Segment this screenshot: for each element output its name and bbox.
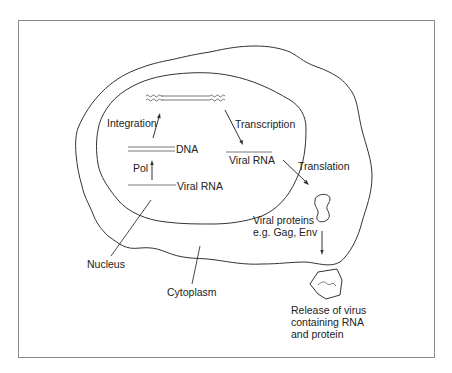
- label-transcription: Transcription: [235, 118, 295, 130]
- viral-protein-shape: [315, 194, 330, 221]
- label-nucleus: Nucleus: [87, 258, 125, 270]
- released-virus-particle: [310, 269, 342, 299]
- label-dna: DNA: [176, 143, 198, 155]
- release-arrowhead: [320, 250, 323, 255]
- label-cytoplasm: Cytoplasm: [167, 286, 217, 298]
- label-viral-rna-genome: Viral RNA: [177, 180, 223, 192]
- integrated-provirus: [146, 95, 225, 101]
- label-release-line3: and protein: [291, 328, 344, 340]
- cell-membrane-outline: [76, 46, 372, 265]
- dna-double-strand: [128, 147, 175, 151]
- label-release-line1: Release of virus: [291, 304, 366, 316]
- virus-rna-squiggle: [318, 282, 336, 286]
- label-pol: Pol: [133, 162, 148, 174]
- label-viral-proteins-line1: Viral proteins: [253, 214, 314, 226]
- label-viral-rna-transcript: Viral RNA: [229, 154, 275, 166]
- pol-arrowhead: [150, 160, 153, 165]
- label-viral-proteins-line2: e.g. Gag, Env: [253, 226, 317, 238]
- label-release-line2: containing RNA: [291, 316, 364, 328]
- figure-frame: [19, 21, 435, 358]
- retrovirus-lifecycle-diagram: [0, 0, 452, 373]
- nucleus-outline: [97, 73, 307, 224]
- cytoplasm-pointer-line: [192, 246, 200, 284]
- transcription-arrowhead: [239, 140, 243, 145]
- integration-arrowhead: [157, 113, 161, 119]
- label-integration: Integration: [107, 117, 157, 129]
- label-translation: Translation: [298, 160, 350, 172]
